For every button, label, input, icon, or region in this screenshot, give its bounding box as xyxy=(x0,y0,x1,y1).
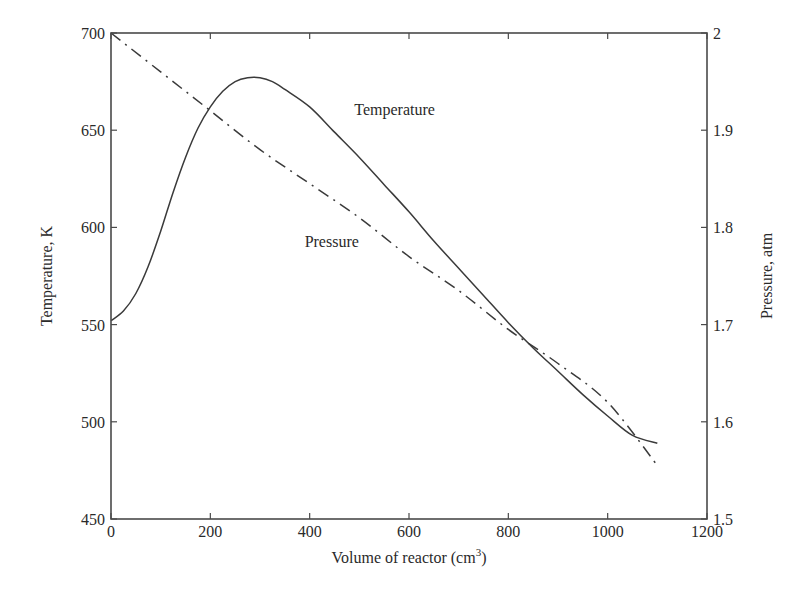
annotation-temperature: Temperature xyxy=(354,101,435,119)
y-left-tick-label: 700 xyxy=(81,25,105,42)
series-temperature xyxy=(111,77,657,443)
x-axis-label: Volume of reactor (cm3) xyxy=(332,546,487,567)
y-right-tick-label: 1.6 xyxy=(713,414,733,431)
x-tick-label: 0 xyxy=(107,523,115,540)
x-tick-label: 200 xyxy=(198,523,222,540)
y-left-tick-label: 500 xyxy=(81,414,105,431)
y-right-axis-label: Pressure, atm xyxy=(758,232,775,319)
chart-canvas: 0200400600800100012004505005506006507001… xyxy=(0,0,801,614)
series-pressure xyxy=(111,33,657,466)
x-tick-label: 600 xyxy=(397,523,421,540)
y-left-tick-label: 550 xyxy=(81,317,105,334)
y-left-tick-label: 650 xyxy=(81,122,105,139)
y-right-tick-label: 1.7 xyxy=(713,317,733,334)
y-left-tick-label: 450 xyxy=(81,511,105,528)
labels: 0200400600800100012004505005506006507001… xyxy=(38,25,775,567)
x-tick-label: 800 xyxy=(496,523,520,540)
y-right-tick-label: 1.5 xyxy=(713,511,733,528)
x-tick-label: 400 xyxy=(298,523,322,540)
y-left-axis-label: Temperature, K xyxy=(38,225,56,326)
annotation-pressure: Pressure xyxy=(305,233,359,250)
y-left-tick-label: 600 xyxy=(81,219,105,236)
y-right-tick-label: 1.9 xyxy=(713,122,733,139)
y-right-tick-label: 2 xyxy=(713,25,721,42)
series-layer xyxy=(111,33,657,466)
y-right-tick-label: 1.8 xyxy=(713,219,733,236)
x-tick-label: 1000 xyxy=(592,523,624,540)
